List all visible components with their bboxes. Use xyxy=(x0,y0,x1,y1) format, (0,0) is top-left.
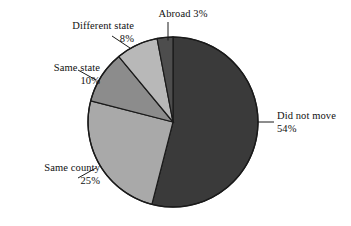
pie-label-same-state: Same state 10% xyxy=(14,62,100,87)
pie-label-same-state-name: Same state xyxy=(54,62,100,73)
pie-label-different-state-name: Different state xyxy=(72,20,134,31)
pie-label-different-state-value: 8% xyxy=(44,33,134,46)
pie-label-same-county-name: Same county xyxy=(44,162,100,173)
pie-label-same-county: Same county 25% xyxy=(8,162,100,187)
pie-label-same-state-value: 10% xyxy=(14,75,100,88)
pie-label-did-not-move: Did not move 54% xyxy=(277,110,351,135)
pie-label-same-county-value: 25% xyxy=(8,175,100,188)
pie-label-abroad: Abroad 3% xyxy=(138,8,228,21)
pie-label-did-not-move-name: Did not move xyxy=(277,110,336,121)
pie-label-did-not-move-value: 54% xyxy=(277,123,351,136)
pie-label-different-state: Different state 8% xyxy=(44,20,134,45)
pie-chart-figure: Abroad 3% Different state 8% Same state … xyxy=(0,0,351,226)
pie-label-abroad-text: Abroad 3% xyxy=(158,8,207,19)
